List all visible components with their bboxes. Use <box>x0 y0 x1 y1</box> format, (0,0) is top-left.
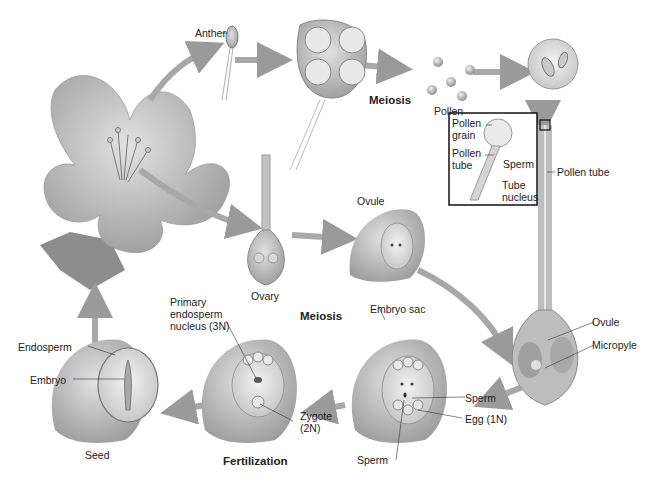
label-pollen-tube: Pollen tube <box>557 166 610 178</box>
embryo-sac-fertilization <box>352 340 447 443</box>
ovary-illustration <box>248 155 285 285</box>
label-ovule-top: Ovule <box>357 195 384 207</box>
seed-illustration <box>52 340 158 443</box>
flower-illustration <box>40 76 229 290</box>
label-pollen: Pollen <box>434 105 463 117</box>
label-ovule-right: Ovule <box>592 316 619 328</box>
life-cycle-diagram: Anther Meiosis Pollen Pollen grain Polle… <box>0 0 657 488</box>
label-primary-endosperm-nucleus: Primary endosperm nucleus (3N) <box>170 296 230 332</box>
label-embryo-sac: Embryo sac <box>370 303 425 315</box>
label-sperm-bottom: Sperm <box>357 454 388 466</box>
label-sperm-right: Sperm <box>465 392 496 404</box>
label-seed: Seed <box>85 449 110 461</box>
label-fertilization: Fertilization <box>223 455 288 467</box>
label-endosperm: Endosperm <box>18 341 72 353</box>
label-anther: Anther <box>195 27 226 39</box>
label-zygote: Zygote (2N) <box>300 410 332 434</box>
label-egg: Egg (1N) <box>465 413 507 425</box>
label-inset-pollen-grain: Pollen grain <box>452 117 481 141</box>
label-meiosis-top: Meiosis <box>369 94 411 106</box>
zygote-stage-illustration <box>202 340 297 443</box>
label-ovary: Ovary <box>251 290 279 302</box>
label-inset-tube-nucleus: Tube nucleus <box>502 179 538 203</box>
label-embryo: Embryo <box>30 374 66 386</box>
ovule-embryo-sac-illustration <box>350 209 425 281</box>
label-micropyle: Micropyle <box>592 339 637 351</box>
label-inset-sperm: Sperm <box>503 158 534 170</box>
anther-cross-section <box>290 20 367 170</box>
label-inset-pollen-tube: Pollen tube <box>452 147 481 171</box>
label-meiosis-mid: Meiosis <box>300 310 342 322</box>
